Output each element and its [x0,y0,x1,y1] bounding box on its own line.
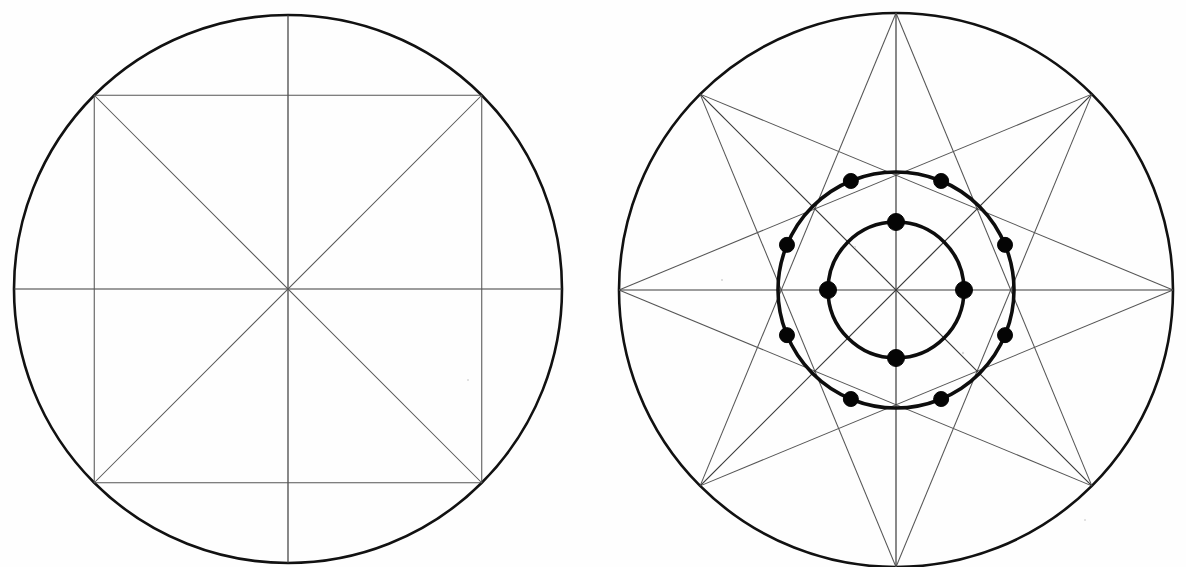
speck [721,279,723,281]
speck [962,352,964,354]
speck [854,246,856,248]
speck [1084,519,1086,521]
speck [467,379,469,381]
paper-specks [0,0,1186,567]
drawing-canvas [0,0,1186,567]
